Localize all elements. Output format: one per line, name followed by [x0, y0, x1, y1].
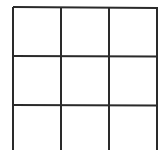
grid-horizontal-line — [13, 56, 157, 57]
grid-top-border — [13, 7, 157, 8]
grid-diagram — [0, 0, 168, 150]
grid-horizontal-line — [13, 105, 157, 106]
